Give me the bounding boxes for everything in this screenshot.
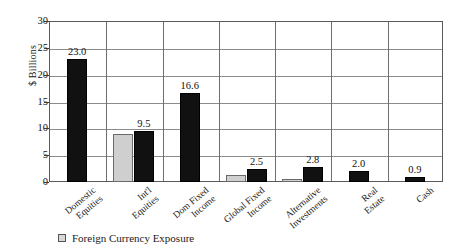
legend-item-label: Foreign Currency Exposure	[72, 232, 194, 244]
y-axis-tick-mark	[44, 21, 49, 22]
y-axis-tick-labels: 051015202530	[14, 0, 48, 252]
bar-value-label: 23.0	[63, 46, 91, 57]
bar-chart: $ Billions 051015202530 23.09.516.62.52.…	[0, 0, 464, 252]
bars-layer: 23.09.516.62.52.82.00.9	[49, 21, 443, 182]
bar-value-label: 2.0	[345, 158, 373, 169]
bar-total	[247, 169, 267, 182]
y-axis-tick-mark	[44, 48, 49, 49]
bar-value-label: 0.9	[401, 164, 429, 175]
bar-total	[303, 167, 323, 182]
bar-value-label: 9.5	[130, 118, 158, 129]
bar-total	[405, 177, 425, 182]
bar-foreign-currency-exposure	[282, 179, 302, 182]
bar-foreign-currency-exposure	[113, 134, 133, 182]
y-axis-tick-mark	[44, 75, 49, 76]
bar-total	[349, 171, 369, 182]
bar-total	[134, 131, 154, 182]
legend-swatch-icon	[58, 234, 66, 242]
bar-foreign-currency-exposure	[226, 175, 246, 182]
bar-value-label: 2.5	[243, 156, 271, 167]
legend: Foreign Currency Exposure	[58, 232, 194, 244]
bar-total	[180, 93, 200, 182]
bar-value-label: 2.8	[299, 154, 327, 165]
bar-total	[67, 59, 87, 182]
y-axis-tick-mark	[44, 128, 49, 129]
y-axis-tick-mark	[44, 102, 49, 103]
y-axis-tick-mark	[44, 182, 49, 183]
bar-value-label: 16.6	[176, 80, 204, 91]
y-axis-tick-mark	[44, 155, 49, 156]
